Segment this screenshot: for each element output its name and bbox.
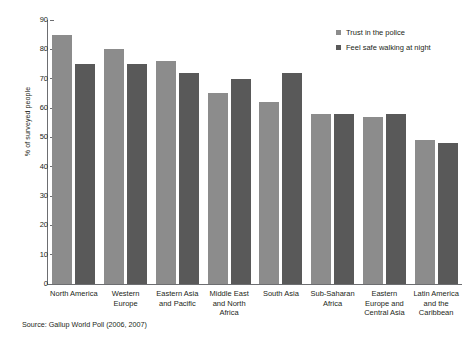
- y-axis-tick-label: 80: [40, 44, 48, 54]
- source-note: Source: Gallup World Poll (2006, 2007): [22, 320, 147, 329]
- legend: Trust in the police Feel safe walking at…: [336, 28, 431, 58]
- y-axis-tick-label: 40: [40, 162, 48, 172]
- bar[interactable]: [231, 79, 251, 284]
- bar-group: [152, 20, 204, 284]
- legend-swatch-icon: [336, 45, 341, 50]
- bar[interactable]: [104, 49, 124, 284]
- x-axis-label: Middle East and North Africa: [203, 289, 255, 318]
- y-axis-tick-label: 60: [40, 103, 48, 113]
- bar[interactable]: [386, 114, 406, 284]
- bar[interactable]: [259, 102, 279, 284]
- y-axis-title: % of surveyed people: [24, 32, 31, 212]
- bar-group: [48, 20, 100, 284]
- plot-area: [48, 20, 462, 284]
- y-axis-tick-label: 90: [40, 15, 48, 25]
- bar[interactable]: [334, 114, 354, 284]
- x-axis-label: Latin America and the Caribbean: [410, 289, 462, 318]
- bar[interactable]: [156, 61, 176, 284]
- bar[interactable]: [75, 64, 95, 284]
- y-axis-tick-label: 30: [40, 191, 48, 201]
- bar[interactable]: [438, 143, 458, 284]
- legend-item[interactable]: Trust in the police: [336, 28, 431, 37]
- bar[interactable]: [179, 73, 199, 284]
- bar-group: [100, 20, 152, 284]
- x-axis-line: [47, 284, 462, 285]
- bar[interactable]: [415, 140, 435, 284]
- legend-swatch-icon: [336, 30, 341, 35]
- bar-group: [359, 20, 411, 284]
- x-axis-label: Eastern Europe and Central Asia: [359, 289, 411, 318]
- bar[interactable]: [127, 64, 147, 284]
- x-axis-label: Sub-Saharan Africa: [307, 289, 359, 308]
- bar-group: [203, 20, 255, 284]
- bar-group: [410, 20, 462, 284]
- bar[interactable]: [363, 117, 383, 284]
- legend-item[interactable]: Feel safe walking at night: [336, 43, 431, 52]
- x-axis-label: North America: [48, 289, 100, 299]
- bar[interactable]: [52, 35, 72, 284]
- bar[interactable]: [282, 73, 302, 284]
- y-axis-tick-label: 20: [40, 220, 48, 230]
- legend-label: Trust in the police: [346, 28, 405, 37]
- y-axis-tick-label: 70: [40, 74, 48, 84]
- y-axis-tick-label: 50: [40, 132, 48, 142]
- bar-group: [255, 20, 307, 284]
- bar[interactable]: [311, 114, 331, 284]
- bar-group: [307, 20, 359, 284]
- x-axis-label: Western Europe: [100, 289, 152, 308]
- legend-label: Feel safe walking at night: [346, 43, 431, 52]
- x-axis-label: Eastern Asia and Pacific: [152, 289, 204, 308]
- x-axis-label: South Asia: [255, 289, 307, 299]
- bar-chart: % of surveyed people 0102030405060708090…: [0, 0, 470, 341]
- y-axis-tick-label: 10: [40, 250, 48, 260]
- bar[interactable]: [208, 93, 228, 284]
